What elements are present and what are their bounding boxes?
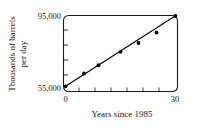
y-axis-ticks	[64, 30, 69, 75]
data-point	[137, 41, 141, 45]
x-axis-ticks	[79, 88, 159, 92]
data-point	[119, 50, 123, 54]
scatter-plot: 95,000 55,000 0 30 Years since 1985 Thou…	[0, 0, 200, 132]
x-tick-label-start: 0	[63, 94, 67, 104]
data-point	[82, 72, 86, 76]
data-point	[174, 14, 178, 18]
chart-figure: 95,000 55,000 0 30 Years since 1985 Thou…	[0, 0, 200, 132]
y-axis-title-line2: per day	[18, 40, 28, 67]
x-axis-title: Years since 1985	[91, 109, 153, 119]
y-tick-label-bottom: 55,000	[38, 83, 61, 93]
data-point	[97, 63, 101, 67]
data-point	[155, 31, 159, 35]
data-point	[64, 84, 68, 88]
y-axis-title-line1: Thousands of barrels	[7, 16, 17, 92]
x-tick-label-end: 30	[171, 94, 180, 104]
y-tick-label-top: 95,000	[38, 11, 61, 21]
